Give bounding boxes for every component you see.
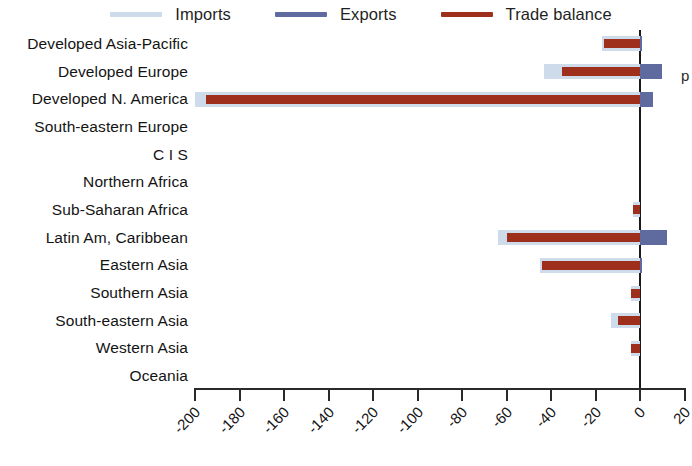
- plot-area: Developed Asia-PacificDeveloped EuropeDe…: [0, 30, 692, 390]
- bar-trade-balance[interactable]: [631, 344, 640, 353]
- legend-item-trade-balance[interactable]: Trade balance: [441, 6, 612, 23]
- axis-tick-label: -160: [260, 404, 292, 436]
- bar-row: [0, 30, 692, 58]
- axis-tick-label: -120: [349, 404, 381, 436]
- axis-tick-mark: [417, 388, 419, 401]
- axis-tick-label: -180: [215, 404, 247, 436]
- axis-tick-label: -100: [393, 404, 425, 436]
- bar-row: [0, 279, 692, 307]
- legend-label-trade-balance: Trade balance: [506, 6, 612, 23]
- axis-tick-label: 0: [631, 404, 648, 421]
- axis-tick-mark: [639, 388, 641, 401]
- bar-row: [0, 362, 692, 390]
- axis-tick-mark: [461, 388, 463, 401]
- bar-trade-balance[interactable]: [618, 316, 640, 325]
- bar-exports[interactable]: [640, 92, 653, 107]
- bar-exports[interactable]: [640, 258, 642, 273]
- bar-trade-balance[interactable]: [562, 67, 640, 76]
- bars-region: [0, 30, 692, 390]
- bar-exports[interactable]: [640, 64, 662, 79]
- axis-tick-mark: [194, 388, 196, 401]
- axis-tick-label: -140: [304, 404, 336, 436]
- bar-trade-balance[interactable]: [206, 95, 640, 104]
- legend-item-imports[interactable]: Imports: [110, 6, 231, 23]
- bar-row: [0, 224, 692, 252]
- bar-exports[interactable]: [640, 36, 642, 51]
- bar-row: [0, 141, 692, 169]
- axis-tick-mark: [283, 388, 285, 401]
- axis-tick-mark: [372, 388, 374, 401]
- axis-tick-label: -200: [171, 404, 203, 436]
- bar-trade-balance[interactable]: [507, 233, 641, 242]
- legend-label-exports: Exports: [340, 6, 397, 23]
- axis-tick-label: -60: [488, 404, 514, 430]
- value-axis: -200-180-160-140-120-100-80-60-40-20020: [0, 388, 692, 466]
- bar-row: [0, 58, 692, 86]
- legend-swatch-exports: [275, 12, 327, 17]
- bar-row: [0, 335, 692, 363]
- bar-trade-balance[interactable]: [631, 289, 640, 298]
- axis-tick-label: -40: [533, 404, 559, 430]
- axis-line: [195, 388, 685, 390]
- bar-trade-balance[interactable]: [604, 39, 640, 48]
- axis-tick-mark: [684, 388, 686, 401]
- chart-legend: ImportsExportsTrade balance: [0, 0, 692, 28]
- bar-row: [0, 85, 692, 113]
- bar-exports[interactable]: [640, 230, 667, 245]
- axis-tick-mark: [328, 388, 330, 401]
- legend-item-exports[interactable]: Exports: [275, 6, 397, 23]
- axis-tick-label: -80: [444, 404, 470, 430]
- bar-trade-balance[interactable]: [633, 205, 640, 214]
- axis-tick-label: 20: [670, 404, 692, 426]
- axis-tick-mark: [239, 388, 241, 401]
- bar-row: [0, 307, 692, 335]
- horizontal-bar-chart: ImportsExportsTrade balance Developed As…: [0, 0, 692, 466]
- legend-swatch-imports: [110, 12, 162, 17]
- axis-tick-mark: [506, 388, 508, 401]
- bar-row: [0, 113, 692, 141]
- edge-artifact-text: p: [681, 67, 689, 84]
- bar-row: [0, 168, 692, 196]
- axis-tick-mark: [595, 388, 597, 401]
- bar-row: [0, 196, 692, 224]
- axis-tick-label: -20: [577, 404, 603, 430]
- bar-row: [0, 252, 692, 280]
- legend-swatch-trade-balance: [441, 12, 493, 17]
- legend-label-imports: Imports: [175, 6, 231, 23]
- axis-tick-mark: [550, 388, 552, 401]
- bar-trade-balance[interactable]: [542, 261, 640, 270]
